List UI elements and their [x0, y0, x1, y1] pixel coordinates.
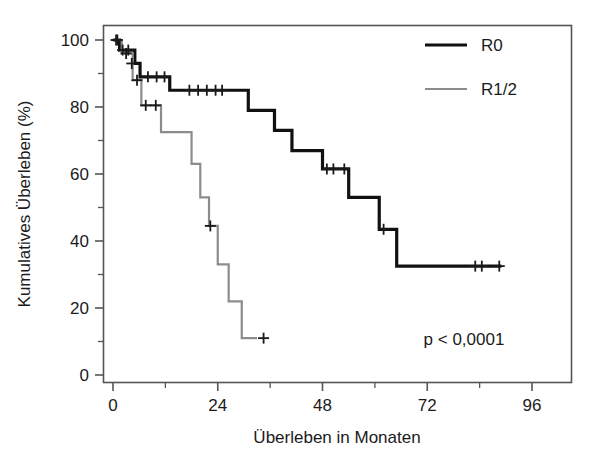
p-value-annotation: p < 0,0001 — [424, 330, 505, 349]
y-tick-label: 0 — [80, 366, 89, 385]
survival-chart: 020406080100 024487296 R0R1/2 Überleben … — [0, 0, 589, 462]
legend-label-r1-2: R1/2 — [481, 80, 517, 99]
x-tick-label: 96 — [523, 396, 542, 415]
x-axis-title: Überleben in Monaten — [253, 428, 420, 447]
y-tick-label: 40 — [70, 232, 89, 251]
x-tick-label: 0 — [108, 396, 117, 415]
y-tick-label: 20 — [70, 299, 89, 318]
x-tick-label: 48 — [313, 396, 332, 415]
y-tick-label: 60 — [70, 165, 89, 184]
legend-label-r0: R0 — [481, 36, 503, 55]
x-tick-label: 72 — [418, 396, 437, 415]
chart-background — [0, 0, 589, 462]
y-axis-title: Kumulatives Überleben (%) — [15, 101, 34, 308]
x-tick-label: 24 — [208, 396, 227, 415]
kaplan-meier-figure: 020406080100 024487296 R0R1/2 Überleben … — [0, 0, 589, 462]
y-tick-label: 100 — [61, 31, 89, 50]
y-tick-label: 80 — [70, 98, 89, 117]
